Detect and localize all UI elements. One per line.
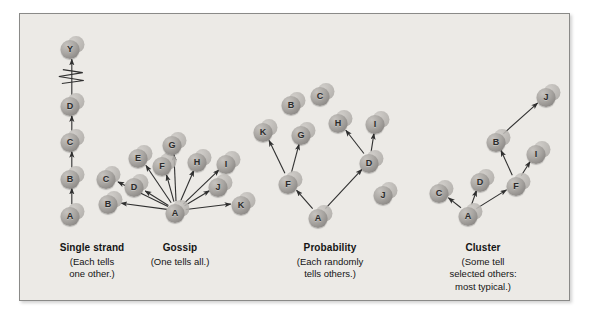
node-label: H [329, 114, 348, 133]
communication-network-diagram: YDCBAABCDEFGHIJKABCDFGHIJKABCDFIJ Single… [0, 0, 593, 319]
node-gossip-b: B [99, 192, 122, 214]
edge-arrow [180, 170, 194, 201]
node-label: I [527, 145, 546, 164]
node-label: C [97, 170, 116, 189]
node-gossip-i: I [217, 152, 240, 174]
caption-title: Gossip [151, 242, 210, 255]
node-gossip-c: C [97, 167, 120, 189]
node-label: J [209, 178, 228, 197]
node-cluster-j: J [537, 85, 560, 107]
node-cluster-i: I [527, 142, 550, 164]
edge-arrow [371, 134, 374, 152]
node-label: B [487, 133, 506, 152]
node-cluster-b: B [487, 130, 510, 152]
edge-arrow [291, 144, 299, 173]
node-label: B [61, 170, 80, 189]
node-label: H [188, 153, 207, 172]
caption-title: Cluster [449, 242, 516, 255]
node-gossip-g: G [163, 133, 186, 155]
node-label: F [279, 175, 298, 194]
node-probability-b: B [282, 93, 305, 115]
caption-title: Probability [297, 242, 364, 255]
node-label: D [471, 173, 490, 192]
node-label: F [507, 177, 526, 196]
node-probability-c: C [311, 84, 334, 106]
caption-line: (Some tell [449, 256, 516, 269]
node-label: J [374, 186, 393, 205]
node-cluster-d: D [471, 170, 494, 192]
node-label: G [163, 136, 182, 155]
caption-line: most typical.) [449, 281, 516, 294]
node-single-strand-y: Y [61, 37, 84, 59]
node-label: A [459, 207, 478, 226]
node-label: D [125, 178, 144, 197]
node-label: G [292, 126, 311, 145]
node-probability-g: G [292, 123, 315, 145]
node-label: C [430, 184, 449, 203]
node-single-strand-a: A [61, 204, 84, 226]
node-label: K [232, 196, 251, 215]
node-probability-d: D [360, 151, 383, 173]
caption-line: (Each tells [60, 256, 125, 269]
edge-arrow [501, 151, 512, 176]
node-single-strand-d: D [61, 94, 84, 116]
node-label: F [153, 157, 172, 176]
caption-title: Single strand [60, 242, 125, 255]
diagram-frame: YDCBAABCDEFGHIJKABCDFGHIJKABCDFIJ Single… [19, 13, 570, 301]
node-label: D [61, 97, 80, 116]
node-label: B [282, 96, 301, 115]
node-label: I [366, 115, 385, 134]
edge-arrow [186, 204, 231, 209]
node-label: I [217, 155, 236, 174]
node-gossip-a: A [166, 201, 189, 223]
node-gossip-j: J [209, 175, 232, 197]
node-probability-k: K [254, 120, 277, 142]
node-label: J [537, 88, 556, 107]
caption-cluster: Cluster(Some tellselected others:most ty… [449, 242, 516, 293]
edge-arrow [121, 203, 167, 209]
node-gossip-h: H [188, 150, 211, 172]
node-probability-f: F [279, 172, 302, 194]
node-probability-h: H [329, 111, 352, 133]
caption-line: selected others: [449, 268, 516, 281]
node-label: A [61, 207, 80, 226]
node-label: A [309, 209, 328, 228]
node-label: D [360, 154, 379, 173]
node-cluster-c: C [430, 181, 453, 203]
node-label: E [129, 149, 148, 168]
caption-probability: Probability(Each randomlytells others.) [297, 242, 364, 281]
node-label: A [166, 204, 185, 223]
caption-line: (One tells all.) [151, 256, 210, 269]
caption-line: one other.) [60, 268, 125, 281]
node-probability-j: J [374, 183, 397, 205]
node-gossip-k: K [232, 193, 255, 215]
node-probability-i: I [366, 112, 389, 134]
caption-line: tells others.) [297, 268, 364, 281]
edge-arrow [269, 140, 285, 173]
node-single-strand-c: C [61, 130, 84, 152]
caption-single-strand: Single strand(Each tellsone other.) [60, 242, 125, 281]
caption-line: (Each randomly [297, 256, 364, 269]
node-label: C [61, 133, 80, 152]
node-gossip-f: F [153, 154, 176, 176]
node-gossip-d: D [125, 175, 148, 197]
node-label: Y [61, 40, 80, 59]
node-cluster-a: A [459, 204, 482, 226]
node-label: C [311, 87, 330, 106]
node-probability-a: A [309, 206, 332, 228]
node-single-strand-b: B [61, 167, 84, 189]
node-label: B [99, 195, 118, 214]
node-gossip-e: E [129, 146, 152, 168]
node-cluster-f: F [507, 174, 530, 196]
node-label: K [254, 123, 273, 142]
caption-gossip: Gossip(One tells all.) [151, 242, 210, 268]
edge-arrow [325, 169, 362, 208]
